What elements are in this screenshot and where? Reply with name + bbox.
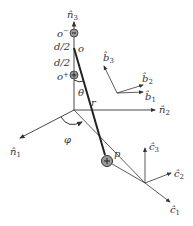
point-p-charge xyxy=(102,156,113,167)
n3-label: n̂3 xyxy=(67,9,78,22)
positive-charge xyxy=(70,71,78,79)
minus-charge-label: o− xyxy=(57,27,69,39)
point-p-label: p xyxy=(114,148,121,159)
c1-vector xyxy=(145,183,170,202)
upper-half-separation: d/2 xyxy=(54,41,70,52)
c3-label: ĉ3 xyxy=(149,141,159,154)
b3-label: b̂3 xyxy=(103,51,114,65)
negative-charge xyxy=(70,29,78,37)
n1-label: n̂1 xyxy=(10,146,21,159)
b2-label: b̂2 xyxy=(142,72,153,86)
center-label: o xyxy=(78,43,84,54)
radius-label: r xyxy=(91,97,97,108)
c2-label: ĉ2 xyxy=(174,168,184,181)
plus-charge-label: o+ xyxy=(57,71,69,82)
lower-half-separation: d/2 xyxy=(54,57,70,68)
phi-label: φ xyxy=(64,134,71,145)
c1-label: ĉ1 xyxy=(170,204,180,217)
theta-label: θ xyxy=(78,87,84,98)
radius-line xyxy=(74,48,105,155)
b1-label: b̂1 xyxy=(145,90,156,104)
c2-vector xyxy=(145,173,171,183)
dipole-diagram: n̂3 n̂2 n̂1 o− d/2 o d/2 o+ θ φ r p b̂3 … xyxy=(0,0,193,226)
n2-label: n̂2 xyxy=(159,104,170,117)
b3-vector xyxy=(104,66,117,93)
p-to-c-line xyxy=(107,161,145,183)
projection-line xyxy=(74,110,145,183)
phi-arc xyxy=(61,117,82,125)
